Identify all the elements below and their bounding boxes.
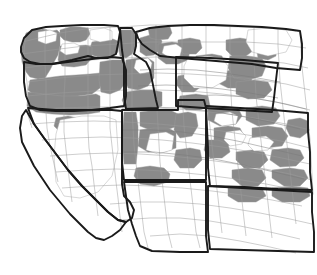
blank-county-wa-pocket3 xyxy=(60,43,80,55)
shaded-county-group-ut-north xyxy=(140,110,178,130)
county-choropleth-map xyxy=(0,0,317,275)
blank-county-wa-pocket2 xyxy=(90,28,112,42)
shaded-county-group-ut-south xyxy=(134,166,170,186)
blank-county-mt-ne xyxy=(246,28,292,56)
blank-county-ut-pocket xyxy=(146,132,174,154)
shaded-county-group-mt-east1 xyxy=(178,38,202,54)
map-figure xyxy=(0,0,317,275)
